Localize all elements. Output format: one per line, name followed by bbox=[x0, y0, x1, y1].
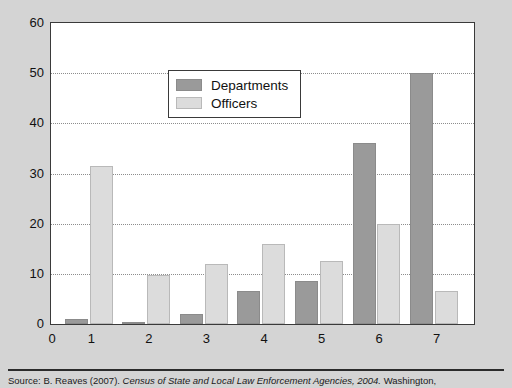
x-tick-label: 0 bbox=[37, 331, 67, 346]
legend-item-officers: Officers bbox=[176, 94, 288, 112]
x-tick-label: 5 bbox=[307, 331, 337, 346]
y-tick-label: 0 bbox=[0, 316, 44, 331]
source-title: Census of State and Local Law Enforcemen… bbox=[123, 375, 381, 386]
y-tick-label: 30 bbox=[0, 166, 44, 181]
bar-departments-1 bbox=[65, 319, 88, 324]
bar-officers-3 bbox=[205, 264, 228, 324]
legend-label-departments: Departments bbox=[211, 78, 288, 93]
x-tick-label: 7 bbox=[422, 331, 452, 346]
plot-area: Departments Officers bbox=[50, 22, 475, 325]
bar-departments-7 bbox=[410, 73, 433, 324]
chart-legend: Departments Officers bbox=[168, 70, 301, 118]
y-tick-label: 50 bbox=[0, 65, 44, 80]
x-axis: 01234567 bbox=[50, 331, 475, 351]
y-tick-label: 40 bbox=[0, 115, 44, 130]
bar-officers-1 bbox=[90, 166, 113, 324]
bar-departments-4 bbox=[237, 291, 260, 324]
y-tick-label: 20 bbox=[0, 216, 44, 231]
y-tick-label: 10 bbox=[0, 266, 44, 281]
legend-label-officers: Officers bbox=[211, 96, 257, 111]
legend-swatch-officers-icon bbox=[176, 97, 202, 109]
x-tick-label: 1 bbox=[76, 331, 106, 346]
x-tick-label: 6 bbox=[364, 331, 394, 346]
source-divider bbox=[8, 369, 504, 371]
legend-swatch-departments-icon bbox=[176, 79, 202, 91]
source-suffix: Washington, bbox=[381, 375, 436, 386]
bar-departments-3 bbox=[180, 314, 203, 324]
y-tick-label: 60 bbox=[0, 15, 44, 30]
bar-departments-6 bbox=[353, 143, 376, 324]
x-tick-label: 3 bbox=[191, 331, 221, 346]
source-prefix: Source: B. Reaves (2007). bbox=[8, 375, 123, 386]
bar-departments-2 bbox=[122, 322, 145, 325]
source-note: Source: B. Reaves (2007). Census of Stat… bbox=[8, 375, 508, 386]
bar-officers-4 bbox=[262, 244, 285, 324]
bar-departments-5 bbox=[295, 281, 318, 324]
x-tick-label: 4 bbox=[249, 331, 279, 346]
bar-officers-7 bbox=[435, 291, 458, 324]
figure: 6050403020100 Departments Officers 01234… bbox=[0, 0, 512, 388]
bar-officers-2 bbox=[147, 275, 170, 324]
y-axis: 6050403020100 bbox=[0, 0, 46, 388]
bar-officers-5 bbox=[320, 261, 343, 324]
bars-layer bbox=[51, 23, 474, 324]
bar-officers-6 bbox=[377, 224, 400, 324]
legend-item-departments: Departments bbox=[176, 76, 288, 94]
x-tick-label: 2 bbox=[134, 331, 164, 346]
